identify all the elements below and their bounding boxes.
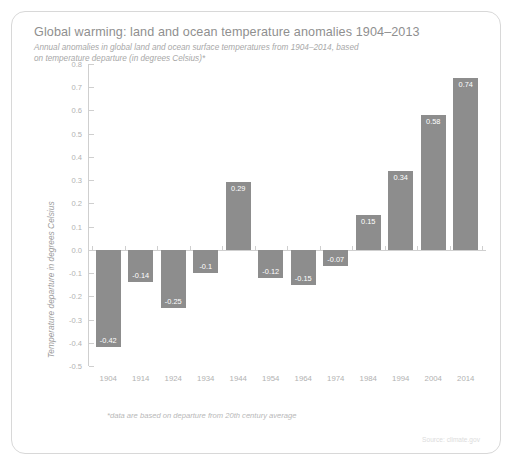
bar[interactable] [388,171,413,250]
y-tick-label: 0.4 [52,152,82,161]
y-tick-label: 0.8 [52,60,82,69]
x-tick-mark [190,246,191,250]
y-tick-mark [89,320,94,321]
x-tick-label: 2004 [417,374,450,383]
y-tick-mark [89,157,94,158]
y-tick-label: 0.0 [52,245,82,254]
bar-value-label: 0.15 [356,217,381,226]
bar-value-label: -0.25 [161,297,186,306]
x-tick-mark [125,246,126,250]
bar-value-label: -0.12 [258,267,283,276]
x-tick-mark [385,246,386,250]
y-tick-label: 0.5 [52,129,82,138]
y-tick-mark [89,134,94,135]
y-tick-label: -0.4 [52,338,82,347]
chart-footnote: *data are based on departure from 20th c… [107,411,297,420]
y-tick-label: 0.6 [52,106,82,115]
bar-value-label: -0.14 [128,271,153,280]
bar-value-label: -0.07 [323,255,348,264]
bar[interactable] [421,115,446,250]
y-tick-mark [89,250,94,251]
x-tick-mark [450,246,451,250]
y-tick-label: -0.3 [52,315,82,324]
y-tick-mark [89,180,94,181]
chart-source: Source: climate.gov [422,436,480,443]
x-tick-mark [222,246,223,250]
x-tick-label: 1904 [92,374,125,383]
x-tick-mark [255,246,256,250]
bar-value-label: -0.42 [96,336,121,345]
y-tick-mark [89,227,94,228]
bar-value-label: 0.29 [226,184,251,193]
bar-value-label: 0.74 [453,80,478,89]
x-tick-mark [417,246,418,250]
y-tick-mark [89,64,94,65]
x-tick-mark [482,246,483,250]
y-tick-label: 0.7 [52,83,82,92]
plot-area: Temperature departure in degrees Celsius… [12,12,502,455]
y-tick-mark [89,343,94,344]
bar[interactable] [96,250,121,348]
x-tick-label: 1994 [385,374,418,383]
bar[interactable] [453,78,478,250]
bar-value-label: -0.15 [291,274,316,283]
y-tick-label: -0.5 [52,362,82,371]
x-tick-label: 1944 [222,374,255,383]
x-tick-label: 1954 [255,374,288,383]
x-tick-mark [320,246,321,250]
x-tick-label: 1964 [287,374,320,383]
y-axis-line [88,64,89,366]
x-tick-label: 1914 [125,374,158,383]
x-tick-mark [92,246,93,250]
y-tick-mark [89,273,94,274]
bar-value-label: 0.58 [421,117,446,126]
y-tick-mark [89,110,94,111]
y-tick-label: 0.1 [52,222,82,231]
x-tick-label: 1974 [320,374,353,383]
y-tick-mark [89,203,94,204]
y-tick-mark [89,87,94,88]
x-tick-label: 1984 [352,374,385,383]
chart-card: Global warming: land and ocean temperatu… [11,11,501,454]
y-tick-label: 0.2 [52,199,82,208]
y-tick-label: -0.2 [52,292,82,301]
y-tick-mark [89,296,94,297]
y-tick-mark [89,366,94,367]
y-tick-label: 0.3 [52,176,82,185]
bar-value-label: 0.34 [388,173,413,182]
x-tick-label: 1934 [190,374,223,383]
y-tick-label: -0.1 [52,269,82,278]
x-tick-mark [352,246,353,250]
x-tick-mark [287,246,288,250]
x-tick-label: 1924 [157,374,190,383]
x-tick-label: 2014 [450,374,483,383]
x-tick-mark [157,246,158,250]
bar-value-label: -0.1 [193,262,218,271]
